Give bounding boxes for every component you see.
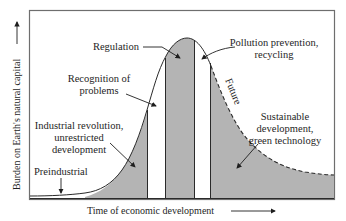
industrial-label-line3: development [52, 144, 106, 155]
sustainable-label-line1: Sustainable [261, 111, 310, 122]
x-axis-label: Time of economic development [87, 205, 214, 216]
sustainable-label-line2: development, [257, 123, 314, 134]
pollution-label-line1: Pollution prevention, [230, 37, 319, 48]
regulation-label: Regulation [93, 41, 140, 52]
recognition-label-line2: problems [79, 85, 118, 96]
burden-vs-development-diagram: Future Regulation Recognition of problem… [0, 0, 346, 221]
industrial-label-line2: unrestricted [54, 132, 104, 143]
preindustrial-label: Preindustrial [34, 166, 88, 177]
pollution-label-line2: recycling [254, 49, 294, 60]
recognition-label-line1: Recognition of [68, 73, 131, 84]
shaded-regulation-region [166, 38, 194, 198]
sustainable-label-line3: green technology [249, 135, 322, 146]
y-axis-label: Burden on Earth's natural capital [11, 59, 22, 190]
industrial-label-line1: Industrial revolution, [35, 120, 124, 131]
